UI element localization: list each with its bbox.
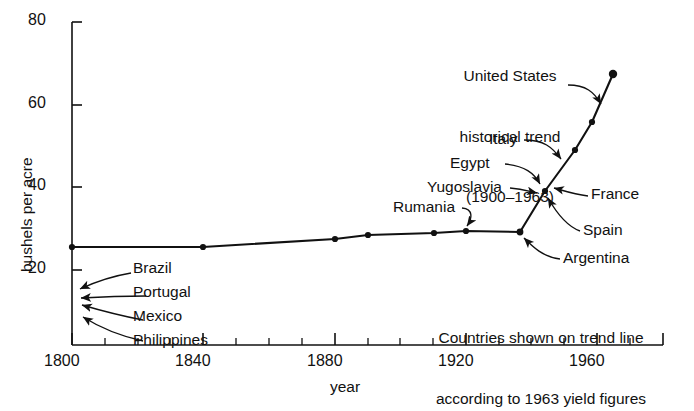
- callout-label-mexico: Mexico: [133, 306, 182, 326]
- y-axis-title: bushels per acre: [18, 157, 36, 272]
- chart-note: Countries shown on trend line according …: [406, 288, 676, 411]
- callout-us-trend: United States historical trend (1900–196…: [450, 26, 570, 248]
- y-tick-label-80: 80: [28, 11, 46, 29]
- chart-note-line2: according to 1963 yield figures: [406, 389, 676, 409]
- callout-us-trend-line2: historical trend: [450, 127, 570, 147]
- callout-label-portugal: Portugal: [133, 282, 191, 302]
- leader-brazil: [80, 273, 131, 289]
- callout-us-trend-line1: United States: [450, 66, 570, 86]
- chart-note-line1: Countries shown on trend line: [406, 328, 676, 348]
- callout-label-philippines: Philippines: [133, 330, 208, 350]
- callout-us-trend-line3: (1900–1963): [450, 187, 570, 207]
- y-tick-label-60: 60: [28, 94, 46, 112]
- callout-label-brazil: Brazil: [133, 258, 172, 278]
- y-axis-ticks: [72, 22, 82, 270]
- x-tick-label-1800: 1800: [44, 352, 80, 370]
- x-axis-title: year: [330, 377, 360, 397]
- x-tick-label-1880: 1880: [307, 352, 343, 370]
- callout-label-rumania: Rumania: [393, 197, 455, 217]
- callout-label-argentina: Argentina: [563, 248, 629, 268]
- callout-label-spain: Spain: [583, 220, 623, 240]
- callout-label-france: France: [591, 184, 639, 204]
- x-tick-label-1840: 1840: [175, 352, 211, 370]
- leader-us-trend: [568, 85, 601, 104]
